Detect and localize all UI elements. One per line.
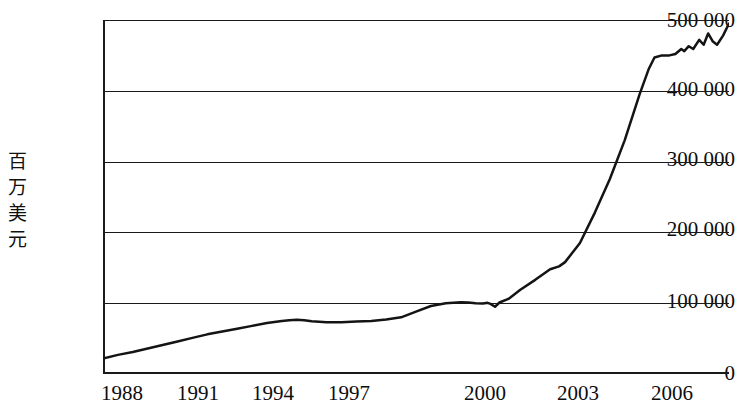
y-axis-title-char-3: 元	[2, 226, 32, 252]
gridlines	[103, 21, 729, 304]
x-tick-label-1991: 1991	[163, 381, 233, 406]
axes	[103, 20, 729, 374]
y-axis-title-char-0: 百	[2, 148, 32, 174]
x-tick-label-1994: 1994	[238, 381, 308, 406]
x-tick-label-2006: 2006	[637, 381, 707, 406]
x-tick-label-2000: 2000	[450, 381, 520, 406]
plot-area	[103, 20, 729, 374]
data-series-line	[103, 24, 729, 359]
x-tick-label-2003: 2003	[543, 381, 613, 406]
chart-figure: 百 万 美 元 500 000 400 000 300 000 200 000 …	[0, 0, 735, 406]
x-tick-label-1988: 1988	[87, 381, 157, 406]
y-axis-title-char-1: 万	[2, 174, 32, 200]
y-axis-title: 百 万 美 元	[2, 148, 32, 252]
y-axis-title-char-2: 美	[2, 200, 32, 226]
plot-canvas	[103, 20, 729, 374]
x-tick-label-1997: 1997	[314, 381, 384, 406]
